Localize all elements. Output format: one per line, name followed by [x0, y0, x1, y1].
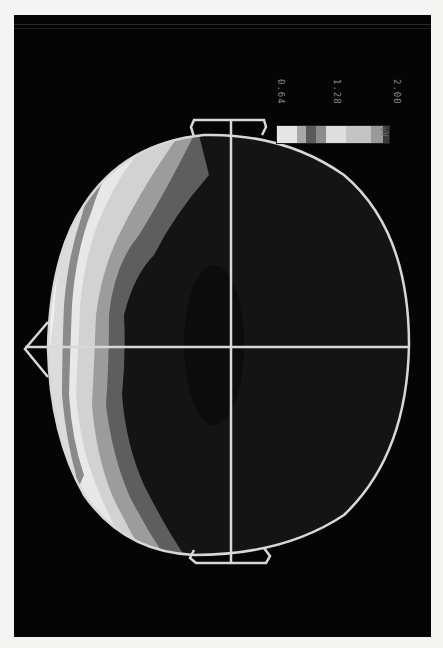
colorbar-segment	[277, 126, 297, 143]
legend-tick-label: 1.28	[332, 79, 342, 105]
colorbar-segment	[306, 126, 316, 143]
legend-tick-label: 0.64	[276, 79, 286, 105]
colorbar-segment	[316, 126, 326, 143]
amplitude-colorbar	[276, 125, 390, 144]
colorbar-segment	[297, 126, 306, 143]
topomap-frame: 0.64 1.28 2.00 uV	[14, 15, 431, 637]
colorbar-segment	[346, 126, 371, 143]
nose-triangle	[25, 322, 48, 377]
legend-tick-label: 2.00	[392, 79, 402, 105]
scalp-topography-map	[14, 15, 431, 637]
amplitude-regions	[14, 15, 431, 637]
legend-unit-label: uV	[379, 127, 388, 137]
colorbar-segment	[326, 126, 346, 143]
